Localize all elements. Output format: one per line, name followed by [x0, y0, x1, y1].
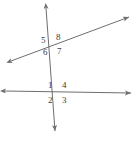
- angle-label-1: 1: [48, 81, 53, 90]
- geometry-figure: 5 8 6 7 1 4 2 3: [0, 0, 135, 141]
- geometry-canvas: [0, 0, 135, 141]
- angle-label-5: 5: [41, 36, 46, 45]
- horizontal-line: [5, 91, 131, 93]
- angle-label-7: 7: [57, 47, 62, 56]
- angle-label-8: 8: [56, 33, 61, 42]
- transversal-line: [11, 17, 129, 61]
- angle-label-3: 3: [62, 96, 67, 105]
- angle-label-2: 2: [48, 96, 53, 105]
- angle-label-4: 4: [62, 81, 67, 90]
- steep-line: [46, 8, 55, 131]
- angle-label-6: 6: [43, 48, 48, 57]
